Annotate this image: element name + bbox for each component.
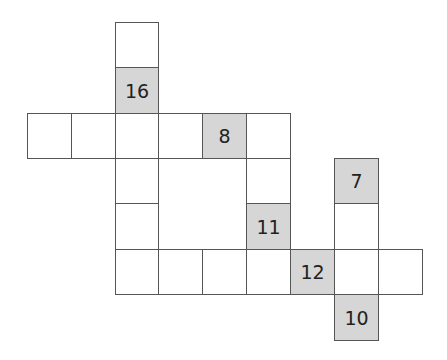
clue-cell: 10 [334,294,379,341]
crossword-grid: 1687111210 [0,0,447,360]
answer-cell[interactable] [334,203,379,250]
answer-cell[interactable] [71,113,116,159]
answer-cell[interactable] [158,249,203,295]
answer-cell[interactable] [334,249,379,295]
answer-cell[interactable] [246,113,291,159]
answer-cell[interactable] [115,22,159,68]
answer-cell[interactable] [158,113,203,159]
clue-cell: 11 [246,203,291,250]
answer-cell[interactable] [115,249,159,295]
clue-cell: 12 [290,249,335,295]
answer-cell[interactable] [27,113,72,159]
clue-cell: 7 [334,158,379,204]
answer-cell[interactable] [115,203,159,250]
answer-cell[interactable] [115,158,159,204]
answer-cell[interactable] [202,249,247,295]
answer-cell[interactable] [246,249,291,295]
answer-cell[interactable] [246,158,291,204]
answer-cell[interactable] [115,113,159,159]
clue-cell: 16 [115,67,159,114]
answer-cell[interactable] [378,249,423,295]
clue-cell: 8 [202,113,247,159]
